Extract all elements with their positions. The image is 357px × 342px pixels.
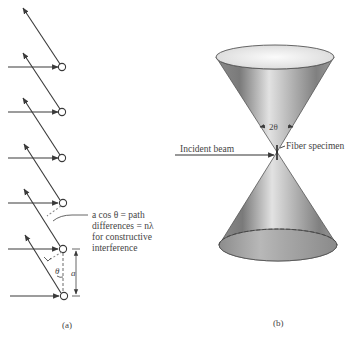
annotation-line-4: interference [92,243,137,253]
incident-beam-label: Incident beam [180,144,235,154]
path-diff-line-upper [47,206,61,216]
upper-cone-rim [216,45,334,69]
theta-arc [57,276,63,277]
fiber-specimen-label: Fiber specimen [286,141,345,151]
spacing-label: a [71,268,76,278]
two-theta-label: 2θ [269,122,278,132]
caption-a: (a) [62,320,72,330]
upper-cone [216,57,334,152]
annotation-leader [53,215,88,221]
theta-label: θ [55,266,60,276]
annotation-line-2: differences = nλ [92,221,154,231]
annotation-line-1: a cos θ = path [92,210,145,220]
diffracted-rays [23,8,61,293]
incident-rays [8,67,59,296]
annotation-line-3: for constructive [92,232,152,242]
panel-a [8,8,88,300]
caption-b: (b) [273,318,284,328]
annotation-text: a cos θ = path differences = nλ for cons… [92,210,154,253]
diffraction-figure: θ a a cos θ = path differences = nλ for … [0,0,357,342]
right-angle-marker [44,257,51,261]
